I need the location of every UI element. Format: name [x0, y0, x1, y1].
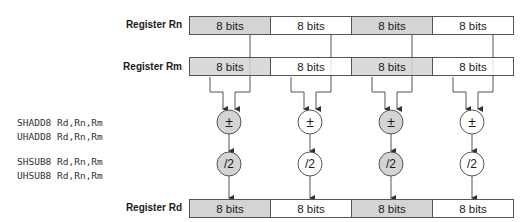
rd-lane-1: 8 bits	[270, 199, 352, 218]
rm-lane-1: 8 bits	[270, 57, 352, 76]
rm-lane-0: 8 bits	[189, 57, 271, 76]
rd-lane-3: 8 bits	[432, 199, 514, 218]
add-sub-op-lane-1: ±	[298, 114, 322, 130]
rn-lane-2: 8 bits	[351, 16, 433, 35]
rn-lane-3: 8 bits	[432, 16, 514, 35]
rm-lane-3: 8 bits	[432, 57, 514, 76]
rn-lane-0: 8 bits	[189, 16, 271, 35]
rd-lane-2: 8 bits	[351, 199, 433, 218]
rm-lane-2: 8 bits	[351, 57, 433, 76]
halve-op-lane-2: /2	[379, 157, 403, 171]
rn-lane-1: 8 bits	[270, 16, 352, 35]
add-sub-op-lane-2: ±	[379, 114, 403, 130]
add-sub-op-lane-3: ±	[460, 114, 484, 130]
halve-op-lane-0: /2	[217, 157, 241, 171]
rd-lane-0: 8 bits	[189, 199, 271, 218]
add-sub-op-lane-0: ±	[217, 114, 241, 130]
halve-op-lane-3: /2	[460, 157, 484, 171]
halve-op-lane-1: /2	[298, 157, 322, 171]
